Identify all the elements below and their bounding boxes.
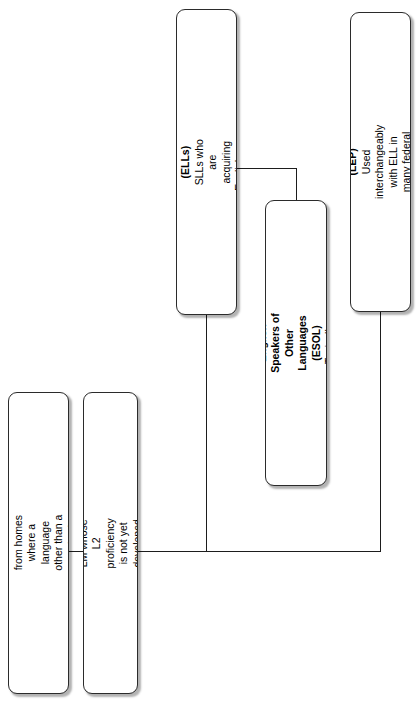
node-limited-english-proficient-title: Limited English Proficient (LEP) (350, 125, 360, 199)
node-english-language-learners[interactable]: English Language Learners (ELLs) SLLs wh… (176, 9, 237, 315)
node-language-minority-text: Language Minority (LM) Individuals from … (8, 514, 69, 573)
node-english-language-learners-text: English Language Learners (ELLs) SLLs wh… (176, 133, 237, 192)
node-second-language-learners[interactable]: Second-Language Learners (SLLs) LM whose… (83, 392, 138, 694)
connector-ells-to-esol-horizontal (237, 168, 297, 169)
node-esl-esol-text: English as a Second Language (ESL) or En… (265, 313, 327, 373)
diagram-canvas: Language Minority (LM) Individuals from … (0, 0, 416, 704)
node-english-language-learners-desc: SLLs who are acquiring English as a seco… (193, 133, 237, 192)
node-language-minority-desc: Individuals from homes where a language … (8, 514, 69, 573)
connector-lm-to-slls (68, 551, 84, 552)
node-esl-esol[interactable]: English as a Second Language (ESL) or En… (265, 200, 327, 486)
node-esl-esol-desc: Typically, ELLs in special education pro… (323, 313, 327, 373)
node-second-language-learners-desc: LM whose L2 proficiency is not yet devel… (83, 517, 138, 570)
node-english-language-learners-title: English Language Learners (ELLs) (176, 133, 193, 192)
connector-ells-to-esol-vertical (296, 168, 297, 201)
connector-lep-to-trunk (380, 312, 381, 552)
connector-trunk-horizontal (137, 551, 381, 552)
node-limited-english-proficient-desc: Used interchangeably with ELL in many fe… (360, 125, 411, 199)
connector-ells-to-trunk (206, 315, 207, 552)
node-second-language-learners-text: Second-Language Learners (SLLs) LM whose… (83, 517, 138, 570)
node-esl-esol-title-line2: English Speakers of Other Languages (ESO… (265, 313, 323, 373)
node-limited-english-proficient[interactable]: Limited English Proficient (LEP) Used in… (350, 12, 411, 312)
node-limited-english-proficient-text: Limited English Proficient (LEP) Used in… (350, 125, 411, 199)
node-language-minority[interactable]: Language Minority (LM) Individuals from … (8, 392, 69, 694)
